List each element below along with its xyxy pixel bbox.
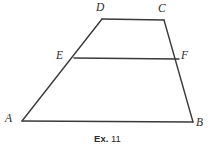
geometry-figure: A B C D E F Ex. 11: [0, 0, 215, 153]
caption-prefix: Ex.: [94, 133, 108, 144]
vertex-label-c: C: [158, 3, 166, 15]
segment-DA: [22, 19, 102, 121]
segment-CD: [102, 19, 164, 20]
segment-EF: [74, 58, 179, 59]
vertex-label-e: E: [56, 50, 63, 62]
segment-AB: [22, 121, 193, 122]
vertex-label-d: D: [96, 2, 104, 14]
trapezoid-diagram: [0, 0, 215, 153]
segment-BC: [164, 20, 193, 122]
figure-caption: Ex. 11: [0, 133, 215, 144]
vertex-label-f: F: [181, 50, 188, 62]
caption-number: 11: [111, 133, 121, 144]
vertex-label-b: B: [196, 117, 203, 129]
vertex-label-a: A: [5, 113, 12, 125]
